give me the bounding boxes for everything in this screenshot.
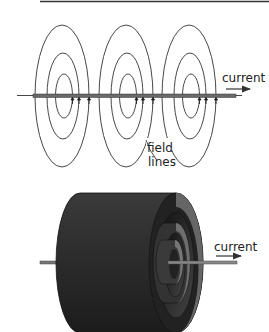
wire-field-diagram: current field lines <box>17 25 266 169</box>
field-lines-label-line2: lines <box>148 155 176 169</box>
current-label-top: current <box>222 71 266 85</box>
magnetic-field-figure: current field lines current <box>0 0 269 332</box>
current-label-bottom: current <box>214 240 258 254</box>
field-lines-label-line1: field <box>147 141 173 155</box>
field-direction-arrows <box>71 98 218 105</box>
wire-left <box>40 261 58 264</box>
wire <box>17 94 242 98</box>
cylinder-diagram: current <box>40 193 258 332</box>
wire-right <box>168 261 237 264</box>
